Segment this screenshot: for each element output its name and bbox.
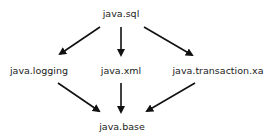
edge-sql-xa (144, 27, 192, 55)
node-java-base: java.base (99, 121, 145, 132)
edge-xa-base (147, 83, 195, 111)
edge-logging-base (58, 83, 99, 111)
node-java-xml: java.xml (101, 65, 141, 76)
node-java-logging: java.logging (10, 65, 68, 76)
node-java-transaction-xa: java.transaction.xa (172, 65, 263, 76)
node-java-sql: java.sql (103, 8, 140, 19)
edge-sql-logging (60, 27, 100, 54)
